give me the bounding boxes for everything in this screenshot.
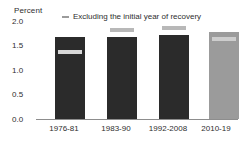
bar-marker-2010-19 [212, 37, 236, 41]
y-tick-label-0-5: 0.5 [12, 91, 36, 99]
bar-2010-19 [209, 32, 239, 119]
bar-group-1976-81 [55, 15, 85, 119]
y-tick-label-1-0: 1.0 [12, 67, 36, 75]
bar-group-2010-19 [209, 15, 239, 119]
bar-group-1983-90 [107, 15, 137, 119]
bar-chart: Percent 2.0 1.5 1.0 0.5 0.0 Excluding th… [0, 0, 245, 143]
y-tick-label-0-0: 0.0 [12, 116, 36, 124]
bar-group-1992-2008 [159, 15, 189, 119]
y-axis-title: Percent [14, 6, 42, 15]
y-tick-label-2-0: 2.0 [12, 18, 36, 26]
bar-marker-1976-81 [58, 50, 82, 54]
bar-1992-2008 [159, 35, 189, 119]
bar-marker-1992-2008 [162, 26, 186, 30]
x-tick-label-2010-19: 2010-19 [187, 124, 245, 133]
bar-1983-90 [107, 37, 137, 119]
y-tick-label-1-5: 1.5 [12, 42, 36, 50]
plot-area [36, 15, 241, 119]
bar-marker-1983-90 [110, 28, 134, 32]
x-axis-line [36, 119, 238, 120]
